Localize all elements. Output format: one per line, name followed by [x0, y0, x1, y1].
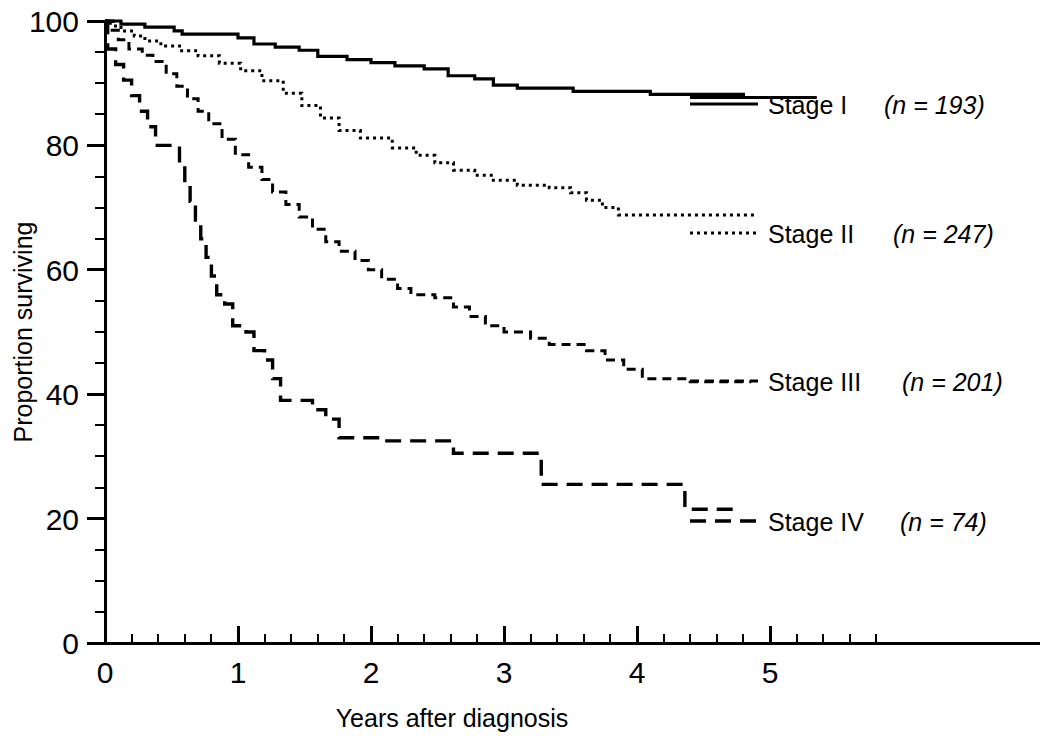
- x-tick-label: 3: [496, 656, 513, 689]
- y-tick-label: 20: [46, 503, 79, 536]
- legend-label-stage-1: Stage I: [768, 91, 847, 119]
- y-tick-label: 60: [46, 254, 79, 287]
- x-tick-label: 5: [762, 656, 779, 689]
- y-axis-title: Proportion surviving: [9, 222, 37, 443]
- legend-label-stage-3: Stage III: [768, 368, 861, 396]
- y-tick-label: 0: [62, 627, 79, 660]
- x-tick-label: 2: [363, 656, 380, 689]
- y-tick-label: 80: [46, 129, 79, 162]
- legend-n-stage-1: (n = 193): [884, 91, 985, 119]
- km-chart-svg: 020406080100 012345 Years after diagnosi…: [0, 0, 1046, 753]
- x-tick-label: 4: [629, 656, 646, 689]
- x-axis-title: Years after diagnosis: [336, 704, 569, 732]
- y-tick-label: 40: [46, 378, 79, 411]
- legend-n-stage-4: (n = 74): [900, 508, 987, 536]
- x-tick-label: 1: [230, 656, 247, 689]
- x-tick-label: 0: [97, 656, 114, 689]
- legend-n-stage-2: (n = 247): [893, 220, 994, 248]
- y-tick-label: 100: [29, 5, 79, 38]
- km-survival-figure: 020406080100 012345 Years after diagnosi…: [0, 0, 1046, 753]
- legend-n-stage-3: (n = 201): [902, 368, 1003, 396]
- legend-label-stage-2: Stage II: [768, 220, 854, 248]
- legend-label-stage-4: Stage IV: [768, 508, 864, 536]
